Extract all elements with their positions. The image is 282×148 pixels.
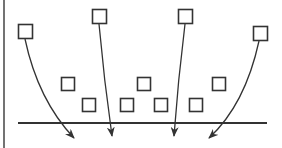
top-squares-group bbox=[19, 10, 268, 41]
diagram-canvas bbox=[0, 0, 282, 148]
lower-squares-group bbox=[62, 78, 226, 112]
top-square-4 bbox=[254, 27, 268, 41]
arrow-3 bbox=[174, 24, 185, 136]
top-square-3 bbox=[179, 10, 193, 24]
lower-square-4 bbox=[138, 78, 151, 91]
lower-square-5 bbox=[155, 99, 168, 112]
top-square-1 bbox=[19, 25, 33, 39]
lower-square-3 bbox=[121, 99, 134, 112]
lower-square-1 bbox=[62, 78, 75, 91]
lower-square-6 bbox=[190, 99, 203, 112]
lower-square-7 bbox=[213, 78, 226, 91]
arrow-2 bbox=[99, 24, 112, 136]
top-square-2 bbox=[93, 10, 107, 24]
lower-square-2 bbox=[83, 99, 96, 112]
